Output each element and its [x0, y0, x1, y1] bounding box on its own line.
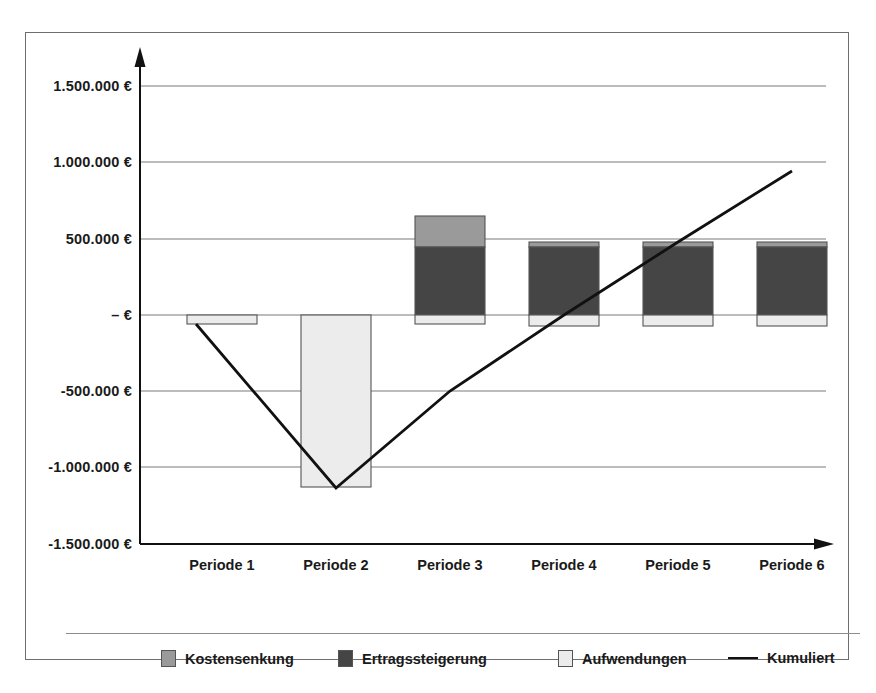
legend-item-kumuliert: Kumuliert — [728, 650, 835, 666]
bar-segment-aufwendungen-p3 — [415, 315, 485, 324]
y-tick-label-minus-1000000: -1.000.000 € — [26, 459, 132, 475]
legend-label-ertragssteigerung: Ertragssteigerung — [362, 651, 487, 667]
bar-group-periode-3 — [415, 216, 485, 324]
legend-item-aufwendungen: Aufwendungen — [558, 650, 687, 667]
bar-segment-ertragssteigerung-p6 — [757, 247, 827, 315]
chart-outer-border: 1.500.000 € 1.000.000 € 500.000 € – € -5… — [25, 32, 849, 660]
bar-segment-kostensenkung-p4 — [529, 242, 599, 247]
x-axis-spine — [140, 539, 834, 550]
y-tick-label-500000: 500.000 € — [26, 231, 132, 247]
legend-label-aufwendungen: Aufwendungen — [582, 651, 687, 667]
bar-group-periode-5 — [643, 242, 713, 326]
legend-label-kostensenkung: Kostensenkung — [185, 651, 294, 667]
x-tick-label-periode-4: Periode 4 — [499, 557, 629, 573]
y-tick-label-minus-500000: -500.000 € — [26, 383, 132, 399]
line-series-kumuliert — [196, 171, 792, 488]
legend-item-kostensenkung: Kostensenkung — [161, 650, 294, 667]
legend-label-kumuliert: Kumuliert — [767, 650, 835, 666]
x-tick-label-periode-6: Periode 6 — [727, 557, 857, 573]
legend-item-ertragssteigerung: Ertragssteigerung — [338, 650, 487, 667]
chart-legend: Kostensenkung Ertragssteigerung Aufwendu… — [66, 633, 860, 679]
legend-swatch-aufwendungen-icon — [558, 650, 573, 667]
bar-segment-kostensenkung-p3 — [415, 216, 485, 247]
bar-segment-ertragssteigerung-p3 — [415, 247, 485, 315]
legend-swatch-ertragssteigerung-icon — [338, 650, 353, 667]
y-tick-label-1000000: 1.000.000 € — [26, 154, 132, 170]
x-tick-label-periode-1: Periode 1 — [157, 557, 287, 573]
y-tick-label-minus-1500000: -1.500.000 € — [26, 536, 132, 552]
y-tick-label-1500000: 1.500.000 € — [26, 78, 132, 94]
x-tick-label-periode-2: Periode 2 — [271, 557, 401, 573]
bar-segment-aufwendungen-p5 — [643, 315, 713, 326]
chart-figure: 1.500.000 € 1.000.000 € 500.000 € – € -5… — [0, 0, 876, 693]
y-axis-spine — [135, 47, 146, 544]
y-tick-label-zero: – € — [26, 307, 132, 323]
bar-segment-kostensenkung-p6 — [757, 242, 827, 247]
bar-segment-aufwendungen-p1 — [187, 315, 257, 324]
bar-group-periode-1 — [187, 315, 257, 324]
bar-group-periode-6 — [757, 242, 827, 326]
legend-swatch-kostensenkung-icon — [161, 650, 176, 667]
x-tick-label-periode-5: Periode 5 — [613, 557, 743, 573]
bar-segment-aufwendungen-p6 — [757, 315, 827, 326]
bar-segment-ertragssteigerung-p4 — [529, 247, 599, 315]
legend-swatch-kumuliert-line-icon — [728, 657, 758, 659]
x-tick-label-periode-3: Periode 3 — [385, 557, 515, 573]
